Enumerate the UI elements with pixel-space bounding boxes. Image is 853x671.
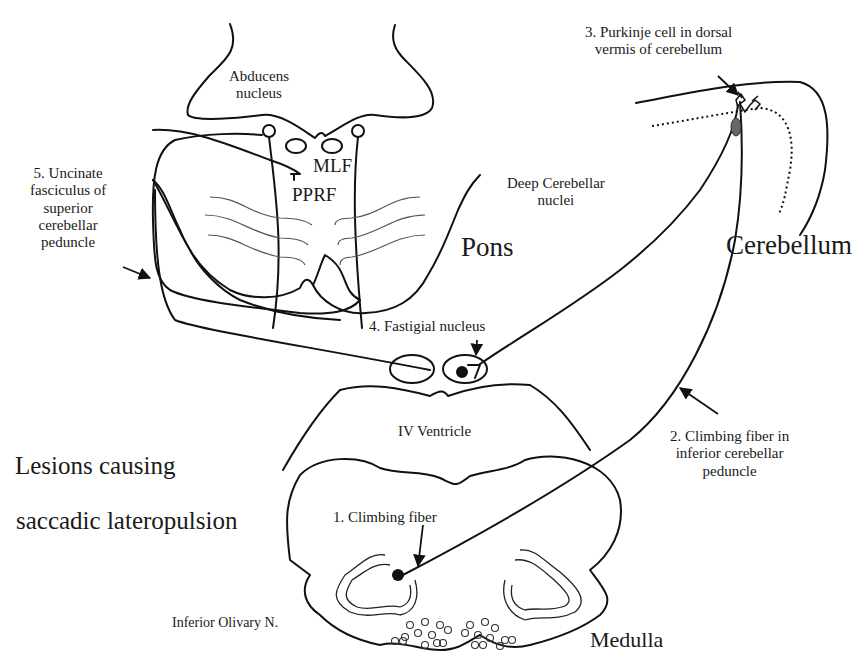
- deep-cerebellar-nuclei-label: Deep Cerebellar nuclei: [507, 175, 605, 210]
- cerebellum-dotted-layer: [652, 108, 792, 215]
- abducens-nucleus-left: [263, 125, 275, 137]
- medulla-label: Medulla: [590, 627, 663, 652]
- medulla-outline: [287, 456, 621, 650]
- arrow-uncinate: [123, 267, 150, 278]
- climbing-fiber-label: 1. Climbing fiber: [333, 509, 437, 526]
- inferior-olive-right: [504, 550, 582, 620]
- inferior-olivary-label: Inferior Olivary N.: [172, 615, 278, 631]
- uncinate-fasciculus-label: 5. Uncinate fasciculus of superior cereb…: [30, 165, 106, 251]
- mlf-left: [286, 139, 306, 153]
- fastigial-lesion-dot: [457, 367, 467, 377]
- iv-ventricle-label: IV Ventricle: [398, 423, 471, 440]
- arrow-climbing-fiber: [418, 525, 423, 566]
- fastigial-7-mark: [468, 365, 480, 378]
- mlf-label: MLF: [313, 155, 352, 177]
- cerebellum-label: Cerebellum: [726, 230, 852, 261]
- pons-label: Pons: [461, 232, 514, 263]
- pprf-label: PPRF: [292, 184, 336, 206]
- pons-transverse-fibers: [205, 197, 425, 265]
- abducens-nucleus-right: [352, 125, 364, 137]
- uncinate-fasciculus: [153, 130, 300, 180]
- title-line-2: saccadic lateropulsion: [16, 507, 237, 536]
- arrow-fastigial: [476, 340, 477, 355]
- mlf-right: [322, 139, 342, 153]
- arrow-climbing-icp: [680, 388, 718, 414]
- saccadic-lateropulsion-diagram: Abducens nucleus MLF PPRF 3. Purkinje ce…: [0, 0, 853, 671]
- cerebellum-outline: [636, 82, 827, 235]
- upper-brainstem-outline: [187, 24, 433, 138]
- title-line-1: Lesions causing: [15, 452, 175, 481]
- uncinate-return: [155, 190, 430, 370]
- purkinje-soma: [731, 118, 741, 136]
- anatomy-drawing: [0, 0, 853, 671]
- abducens-nucleus-label: Abducens nucleus: [229, 68, 289, 103]
- climbing-fiber-icp-label: 2. Climbing fiber in inferior cerebellar…: [670, 428, 789, 480]
- climbing-fiber-lesion-dot: [392, 569, 404, 581]
- abducens-fiber-left: [269, 137, 279, 328]
- inferior-olive-left: [336, 555, 417, 616]
- purkinje-to-fastigial-fiber: [480, 105, 738, 364]
- fastigial-nucleus-label: 4. Fastigial nucleus: [369, 318, 485, 335]
- climbing-fiber: [401, 102, 742, 576]
- purkinje-cell-label: 3. Purkinje cell in dorsal vermis of cer…: [585, 24, 732, 59]
